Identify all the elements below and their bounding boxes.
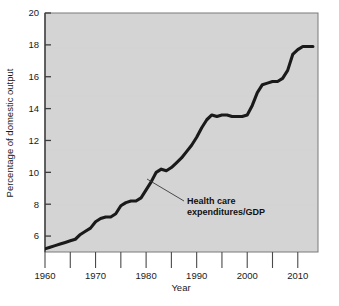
x-tick-label: 2000 <box>237 270 258 281</box>
y-tick-label: 10 <box>28 167 39 178</box>
y-tick-label: 6 <box>34 230 39 241</box>
x-axis-tick-labels: 196019701980199020002010 <box>34 270 308 281</box>
plot-background <box>45 13 318 252</box>
annotation-label-line1: Health care <box>187 196 236 206</box>
x-tick-label: 1990 <box>186 270 207 281</box>
x-tick-label: 2010 <box>287 270 308 281</box>
chart-figure: 20181614121086 196019701980199020002010 … <box>0 0 339 306</box>
y-tick-label: 16 <box>28 71 39 82</box>
y-tick-label: 20 <box>28 7 39 18</box>
x-axis-title: Year <box>171 282 190 293</box>
y-tick-label: 18 <box>28 39 39 50</box>
axis-break-band <box>45 255 331 258</box>
x-tick-label: 1980 <box>136 270 157 281</box>
y-tick-label: 14 <box>28 103 39 114</box>
x-tick-label: 1970 <box>85 270 106 281</box>
annotation-label-line2: expenditures/GDP <box>187 207 265 217</box>
y-axis-title: Percentage of domestic output <box>4 68 15 197</box>
y-tick-label: 12 <box>28 135 39 146</box>
health-care-gdp-line-chart: 20181614121086 196019701980199020002010 … <box>0 0 339 306</box>
y-tick-label: 8 <box>34 199 39 210</box>
x-tick-label: 1960 <box>34 270 55 281</box>
